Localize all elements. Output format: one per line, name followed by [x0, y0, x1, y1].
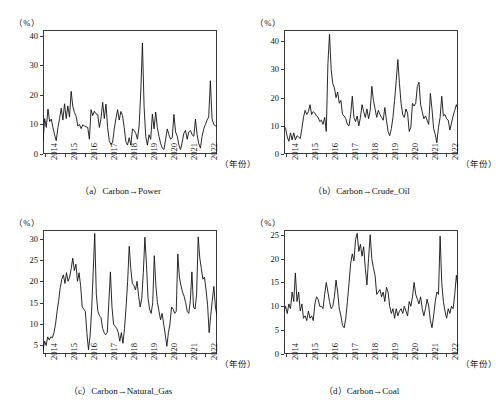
panel-b-plot: 010203040 201420152016201720182019202020… [284, 30, 458, 154]
x-tick-mark-a-2021 [185, 154, 186, 157]
y-tick-label-b-20: 20 [257, 93, 279, 103]
x-tick-label-b-2017: 2017 [350, 143, 360, 160]
y-tick-mark-d-25 [281, 235, 284, 236]
panel-c-caption-index: （c） [69, 386, 92, 396]
x-tick-label-c-2015: 2015 [69, 343, 79, 360]
x-tick-mark-c-2018 [125, 354, 126, 357]
y-tick-label-d-10: 10 [257, 301, 279, 311]
x-tick-mark-c-2016 [85, 354, 86, 357]
y-tick-label-c-25: 25 [16, 255, 38, 265]
x-tick-mark-a-2017 [105, 154, 106, 157]
panel-d-caption: （d）Carbon→Coal [241, 384, 482, 397]
x-tick-label-a-2015: 2015 [69, 143, 79, 160]
x-tick-label-c-2020: 2020 [169, 343, 179, 360]
x-tick-mark-d-2018 [366, 354, 367, 357]
panel-c-caption-text: Carbon→Natural_Gas [91, 386, 172, 396]
panel-d: （%） 0510152025 2014201520162017201820192… [241, 205, 482, 410]
panel-d-xaxis-label: （年份） [461, 357, 496, 369]
x-tick-label-d-2016: 2016 [330, 343, 340, 360]
series-path-b [284, 34, 458, 143]
y-tick-label-d-25: 25 [257, 230, 279, 240]
x-tick-mark-b-2017 [346, 154, 347, 157]
y-tick-mark-b-40 [281, 41, 284, 42]
x-tick-label-d-2017: 2017 [350, 343, 360, 360]
y-tick-mark-a-10 [40, 124, 43, 125]
x-tick-mark-d-2021 [426, 354, 427, 357]
y-tick-mark-b-0 [281, 154, 284, 155]
x-tick-label-a-2014: 2014 [49, 143, 59, 160]
x-tick-mark-d-2022 [446, 354, 447, 357]
panel-b-unit-label: （%） [255, 16, 281, 28]
y-tick-label-b-0: 0 [257, 149, 279, 159]
panel-a-unit-label: （%） [14, 16, 40, 28]
x-tick-mark-a-2022 [205, 154, 206, 157]
x-tick-mark-c-2015 [65, 354, 66, 357]
x-tick-mark-b-2018 [366, 154, 367, 157]
x-tick-mark-b-2021 [426, 154, 427, 157]
x-tick-label-d-2014: 2014 [290, 343, 300, 360]
x-tick-label-b-2019: 2019 [390, 143, 400, 160]
x-tick-label-b-2022: 2022 [450, 143, 460, 160]
panel-a-caption-index: （a） [80, 186, 103, 196]
y-tick-mark-b-30 [281, 69, 284, 70]
panel-b-series-line [284, 30, 458, 154]
y-tick-label-a-40: 40 [16, 31, 38, 41]
series-path-a [43, 43, 217, 150]
x-tick-mark-a-2020 [165, 154, 166, 157]
x-tick-mark-c-2020 [165, 354, 166, 357]
panel-c-plot: 51015202530 2014201520162017201820192020… [43, 230, 217, 354]
y-tick-mark-a-20 [40, 95, 43, 96]
x-tick-label-b-2016: 2016 [330, 143, 340, 160]
x-tick-label-a-2018: 2018 [129, 143, 139, 160]
x-tick-label-b-2015: 2015 [310, 143, 320, 160]
x-tick-mark-c-2017 [105, 354, 106, 357]
panel-c-unit-label: （%） [14, 216, 40, 228]
y-tick-label-b-30: 30 [257, 64, 279, 74]
x-tick-label-c-2021: 2021 [189, 343, 199, 360]
panel-b-xaxis-label: （年份） [461, 157, 496, 169]
x-tick-mark-a-2015 [65, 154, 66, 157]
panel-b-caption: （b）Carbon→Crude_Oil [241, 184, 482, 197]
y-tick-label-c-30: 30 [16, 234, 38, 244]
y-tick-label-a-10: 10 [16, 119, 38, 129]
y-tick-mark-c-10 [40, 324, 43, 325]
x-tick-mark-c-2021 [185, 354, 186, 357]
x-tick-label-d-2020: 2020 [410, 343, 420, 360]
panel-b-caption-text: Carbon→Crude_Oil [336, 186, 410, 196]
x-tick-mark-d-2016 [326, 354, 327, 357]
y-tick-label-c-15: 15 [16, 298, 38, 308]
y-tick-mark-c-15 [40, 303, 43, 304]
x-tick-label-a-2017: 2017 [109, 143, 119, 160]
panel-d-unit-label: （%） [255, 216, 281, 228]
panel-a: （%） 010203040 20142015201620172018201920… [0, 0, 241, 205]
y-tick-label-a-30: 30 [16, 60, 38, 70]
x-tick-mark-d-2017 [346, 354, 347, 357]
y-tick-label-d-15: 15 [257, 277, 279, 287]
y-tick-mark-c-30 [40, 239, 43, 240]
panel-c: （%） 51015202530 201420152016201720182019… [0, 205, 241, 410]
x-tick-label-b-2018: 2018 [370, 143, 380, 160]
x-tick-label-a-2022: 2022 [209, 143, 219, 160]
y-tick-mark-c-25 [40, 260, 43, 261]
y-tick-mark-c-5 [40, 345, 43, 346]
y-tick-mark-d-20 [281, 259, 284, 260]
panel-b: （%） 010203040 20142015201620172018201920… [241, 0, 482, 205]
x-tick-mark-c-2019 [145, 354, 146, 357]
y-tick-mark-a-40 [40, 36, 43, 37]
panel-d-caption-index: （d） [324, 386, 347, 396]
x-tick-label-b-2020: 2020 [410, 143, 420, 160]
panel-d-plot: 0510152025 20142015201620172018201920202… [284, 230, 458, 354]
x-tick-label-d-2022: 2022 [450, 343, 460, 360]
panel-d-series-line [284, 230, 458, 354]
panel-a-plot: 010203040 201420152016201720182019202020… [43, 30, 217, 154]
x-tick-label-d-2019: 2019 [390, 343, 400, 360]
x-tick-label-a-2016: 2016 [89, 143, 99, 160]
x-tick-label-c-2017: 2017 [109, 343, 119, 360]
y-tick-mark-d-0 [281, 354, 284, 355]
x-tick-label-a-2020: 2020 [169, 143, 179, 160]
x-tick-mark-a-2018 [125, 154, 126, 157]
y-tick-mark-a-0 [40, 154, 43, 155]
y-tick-label-b-40: 40 [257, 36, 279, 46]
x-tick-label-a-2021: 2021 [189, 143, 199, 160]
